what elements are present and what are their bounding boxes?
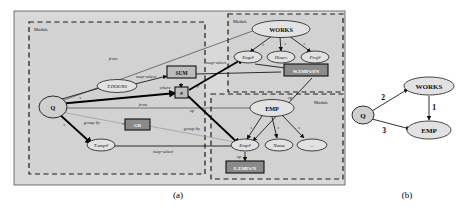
edge-label-group-by-2: group by (184, 126, 201, 131)
edge-label-s-w2: s (284, 41, 286, 46)
edge-label-map-select-1: map-select (136, 74, 157, 79)
module-works-label: Module (233, 19, 247, 24)
edge-label-map-select-2: map-select (206, 60, 227, 65)
module-query-label: Module (34, 27, 48, 32)
module-emp-label: Module (314, 100, 328, 105)
edge-b-label-works-emp: 1 (432, 103, 436, 112)
edge-label-s-e1: s (250, 125, 252, 130)
box-works-map-label: W.EMP#/PN (293, 69, 320, 74)
node-b-query-label: Q (360, 112, 366, 120)
node-b-emp-label: EMP (421, 127, 437, 135)
node-b-works-label: WORKS (416, 83, 443, 91)
node-t-hours-label: T.HOURS (107, 84, 128, 89)
edge-label-op-1: op (195, 83, 200, 88)
edge-label-from-2: from (139, 102, 148, 107)
schema-mapping-diagram: Module Module Module from s map-select m… (0, 0, 457, 213)
node-emp-etc-label: ... (310, 143, 314, 148)
node-emp-empno-label: Emp# (238, 143, 251, 148)
box-sum-label: SUM (176, 70, 188, 76)
edge-label-op-4: op (237, 154, 242, 159)
node-works-projno-label: Proj# (308, 55, 321, 60)
edge-b-label-q-emp: 3 (382, 126, 386, 135)
node-emp-name-label: Name (272, 143, 285, 148)
edge-label-s-w1: s (262, 42, 264, 47)
edge-label-s-q2: s (63, 122, 65, 127)
edge-b-q-emp (372, 119, 410, 129)
edge-label-group-by-1: group by (84, 120, 101, 125)
node-works-empno-label: Emp# (241, 55, 254, 60)
edge-label-s-e3: s (298, 125, 300, 130)
figure-root: Module Module Module from s map-select m… (0, 0, 457, 213)
node-t-empno-label: T.emp# (94, 143, 109, 148)
box-emp-map-label: E.EMP#/N (234, 166, 257, 171)
edge-label-map-select-3: map-select (153, 149, 174, 154)
edge-label-op-2: op (190, 108, 195, 113)
edge-b-q-works (372, 89, 408, 111)
box-gb-label: GB (134, 123, 142, 128)
box-op-where-label: σ (180, 90, 183, 96)
edge-label-from-1: from (109, 56, 118, 61)
edge-label-op-3: op (288, 95, 293, 100)
node-emp-label: EMP (265, 105, 279, 112)
edge-b-label-q-works: 2 (381, 93, 385, 102)
node-works-hours-label: Hours (274, 55, 288, 60)
edge-label-s-q1: s (79, 95, 81, 100)
edge-label-s-e2: s (277, 125, 279, 130)
caption-b: (b) (402, 190, 413, 200)
node-works-label: WORKS (269, 26, 293, 33)
edge-label-where: where (159, 85, 170, 90)
node-query-label: Q (51, 104, 56, 111)
caption-a: (a) (173, 190, 183, 200)
edge-label-s-w3: s (303, 41, 305, 46)
